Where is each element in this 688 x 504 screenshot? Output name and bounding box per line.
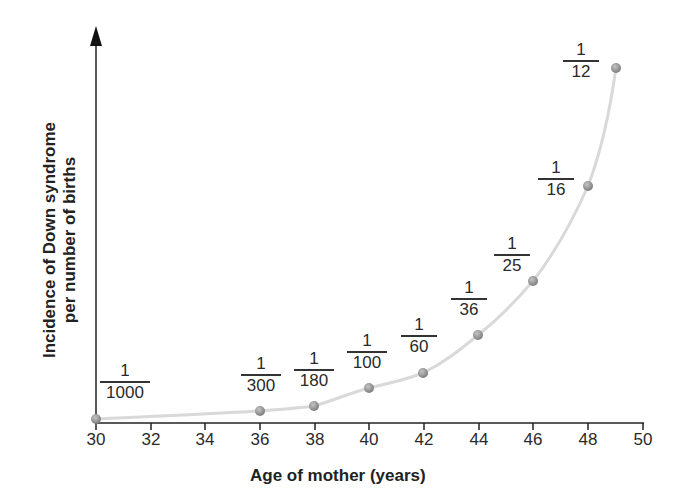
x-tick-36: 36 xyxy=(251,430,270,450)
data-point-48 xyxy=(583,181,593,191)
x-tick-48: 48 xyxy=(579,430,598,450)
annotation-1-100: 1 100 xyxy=(347,332,387,372)
y-axis-title-line2: per number of births xyxy=(60,122,80,358)
data-point-42 xyxy=(418,368,428,378)
x-tick-44: 44 xyxy=(470,430,489,450)
data-point-40 xyxy=(364,383,374,393)
data-point-36 xyxy=(255,406,265,416)
x-tick-42: 42 xyxy=(415,430,434,450)
annotation-1-1000: 1 1000 xyxy=(100,362,150,402)
data-point-49 xyxy=(611,63,621,73)
x-tick-38: 38 xyxy=(306,430,325,450)
y-axis-arrow-icon xyxy=(90,26,102,46)
x-tick-34: 34 xyxy=(196,430,215,450)
annotation-1-16: 1 16 xyxy=(538,159,574,199)
x-axis-title: Age of mother (years) xyxy=(250,466,426,486)
data-point-38 xyxy=(309,401,319,411)
data-point-46 xyxy=(528,276,538,286)
x-tick-50: 50 xyxy=(634,430,653,450)
data-point-44 xyxy=(473,330,483,340)
annotation-1-36: 1 36 xyxy=(451,279,487,319)
annotation-1-12: 1 12 xyxy=(563,41,599,81)
data-point-30 xyxy=(91,414,101,424)
annotation-1-300: 1 300 xyxy=(241,355,281,395)
y-axis-title-line1: Incidence of Down syndrome xyxy=(40,122,60,358)
x-tick-30: 30 xyxy=(87,430,106,450)
annotation-1-60: 1 60 xyxy=(401,316,437,356)
annotation-1-180: 1 180 xyxy=(294,350,334,390)
x-tick-46: 46 xyxy=(524,430,543,450)
y-axis-title: Incidence of Down syndrome per number of… xyxy=(40,122,80,358)
x-tick-32: 32 xyxy=(142,430,161,450)
x-tick-40: 40 xyxy=(360,430,379,450)
annotation-1-25: 1 25 xyxy=(494,235,530,275)
x-axis-ticks xyxy=(96,423,643,430)
